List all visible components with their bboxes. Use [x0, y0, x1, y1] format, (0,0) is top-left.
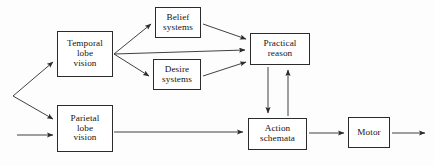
node-label-line: vision [73, 133, 96, 143]
flowchart-diagram: Temporal lobe vision Belief systems Desi… [0, 0, 434, 166]
edge-input-fork-to-temporal [13, 62, 53, 96]
node-label-line: schemata [260, 134, 295, 144]
node-action-schemata[interactable]: Action schemata [248, 118, 307, 150]
edge-temporal-to-practical [114, 50, 245, 54]
node-label-line: Motor [357, 128, 380, 138]
node-parietal-lobe-vision[interactable]: Parietal lobe vision [57, 105, 113, 152]
node-belief-systems[interactable]: Belief systems [155, 7, 201, 38]
node-motor[interactable]: Motor [348, 117, 390, 148]
edge-temporal-to-belief [114, 24, 151, 54]
node-label-line: Belief [166, 13, 189, 23]
edge-input-fork-to-parietal [13, 96, 53, 119]
node-label-line: Desire [165, 65, 190, 75]
node-label-line: systems [163, 23, 193, 33]
node-temporal-lobe-vision[interactable]: Temporal lobe vision [57, 31, 113, 77]
node-label-line: systems [162, 75, 192, 85]
edge-belief-to-practical [203, 24, 246, 39]
edge-temporal-to-desire [114, 54, 149, 76]
node-label-line: vision [73, 59, 96, 69]
node-desire-systems[interactable]: Desire systems [153, 59, 201, 90]
edge-desire-to-practical [203, 62, 246, 76]
node-practical-reason[interactable]: Practical reason [250, 33, 310, 65]
node-label-line: reason [268, 49, 293, 59]
